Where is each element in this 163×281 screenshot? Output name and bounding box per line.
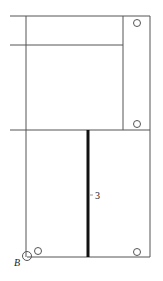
support-b-icon <box>23 252 32 261</box>
hinge-top-right-icon <box>134 20 141 27</box>
member-3-label: 3 <box>95 190 100 201</box>
structure-diagram: 3 B <box>0 0 163 281</box>
support-b-label: B <box>14 257 20 268</box>
hinge-bottom-right-icon <box>134 249 141 256</box>
hinge-mid-right-icon <box>134 121 141 128</box>
hinge-bottom-left-icon <box>35 248 42 255</box>
